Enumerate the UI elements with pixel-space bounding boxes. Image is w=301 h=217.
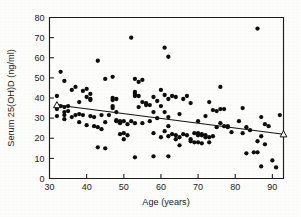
data-point — [73, 113, 77, 117]
figure-container: 01020304050607080 30405060708090 Age (ye… — [0, 0, 301, 217]
data-point — [159, 135, 163, 139]
data-point — [114, 119, 118, 123]
data-point — [174, 95, 178, 99]
data-point — [170, 94, 174, 98]
data-point — [99, 113, 103, 117]
y-tick-label: 60 — [34, 53, 44, 63]
data-point — [177, 112, 181, 116]
data-point — [170, 132, 174, 136]
data-point — [218, 107, 222, 111]
data-point — [203, 114, 207, 118]
trend-line — [57, 105, 284, 134]
data-point — [211, 108, 215, 112]
data-point — [278, 113, 282, 117]
data-point — [162, 110, 166, 114]
y-tick-label: 70 — [34, 33, 44, 43]
x-tick-label: 90 — [267, 182, 277, 192]
data-point — [133, 77, 137, 81]
data-point — [77, 100, 81, 104]
data-point — [118, 132, 122, 136]
data-point — [96, 145, 100, 149]
data-point — [196, 133, 200, 137]
y-tick-label: 50 — [34, 73, 44, 83]
data-point — [103, 77, 107, 81]
data-point — [259, 115, 263, 119]
data-point — [162, 129, 166, 133]
data-point — [159, 88, 163, 92]
data-point — [174, 137, 178, 141]
x-tick-label: 60 — [156, 182, 166, 192]
data-point — [148, 103, 152, 107]
data-point — [129, 35, 133, 39]
y-axis-tick-labels: 01020304050607080 — [34, 13, 44, 184]
data-point — [136, 105, 140, 109]
y-tick-label: 30 — [34, 113, 44, 123]
data-point — [133, 155, 137, 159]
data-point — [58, 70, 62, 74]
data-point — [133, 94, 137, 98]
data-point — [185, 133, 189, 137]
y-tick-label: 80 — [34, 13, 44, 23]
data-point — [110, 106, 114, 110]
data-point — [88, 98, 92, 102]
data-point — [118, 121, 122, 125]
x-axis-title: Age (years) — [142, 197, 190, 207]
data-point — [151, 131, 155, 135]
data-point — [218, 121, 222, 125]
data-point — [73, 85, 77, 89]
data-point — [196, 140, 200, 144]
data-point — [148, 119, 152, 123]
data-point — [155, 99, 159, 103]
data-point — [263, 122, 267, 126]
y-axis-title: Serum 25(OH)D (ng/ml) — [6, 49, 16, 147]
data-point — [218, 85, 222, 89]
data-point — [96, 59, 100, 63]
data-point — [200, 141, 204, 145]
data-point — [122, 137, 126, 141]
data-point — [252, 150, 256, 154]
data-point — [110, 75, 114, 79]
data-point — [77, 112, 81, 116]
data-point — [55, 114, 59, 118]
data-point — [88, 92, 92, 96]
data-point — [62, 117, 66, 121]
data-point — [125, 133, 129, 137]
data-point — [207, 140, 211, 144]
data-point — [140, 121, 144, 125]
data-point — [84, 123, 88, 127]
data-point — [255, 150, 259, 154]
data-point — [185, 94, 189, 98]
x-tick-label: 30 — [44, 182, 54, 192]
data-point — [237, 119, 241, 123]
data-point — [244, 151, 248, 155]
data-point — [122, 131, 126, 135]
data-point — [259, 164, 263, 168]
data-point — [207, 100, 211, 104]
x-axis-ticks — [50, 174, 273, 179]
data-point — [214, 109, 218, 113]
data-point — [159, 104, 163, 108]
y-axis-ticks — [50, 18, 55, 179]
data-point — [192, 140, 196, 144]
data-point — [122, 119, 126, 123]
data-point — [77, 120, 81, 124]
data-point — [177, 143, 181, 147]
data-point — [240, 106, 244, 110]
data-point — [103, 120, 107, 124]
data-point — [259, 134, 263, 138]
y-tick-label: 40 — [34, 93, 44, 103]
data-point — [270, 158, 274, 162]
data-point — [70, 115, 74, 119]
data-point — [96, 125, 100, 129]
x-tick-label: 80 — [230, 182, 240, 192]
scatter-plot: 01020304050607080 30405060708090 Age (ye… — [0, 0, 301, 217]
data-point — [240, 131, 244, 135]
data-point — [140, 100, 144, 104]
data-point — [255, 26, 259, 30]
data-point — [211, 134, 215, 138]
data-point — [103, 146, 107, 150]
data-point — [166, 115, 170, 119]
data-point — [274, 165, 278, 169]
data-point — [70, 88, 74, 92]
y-tick-label: 20 — [34, 133, 44, 143]
